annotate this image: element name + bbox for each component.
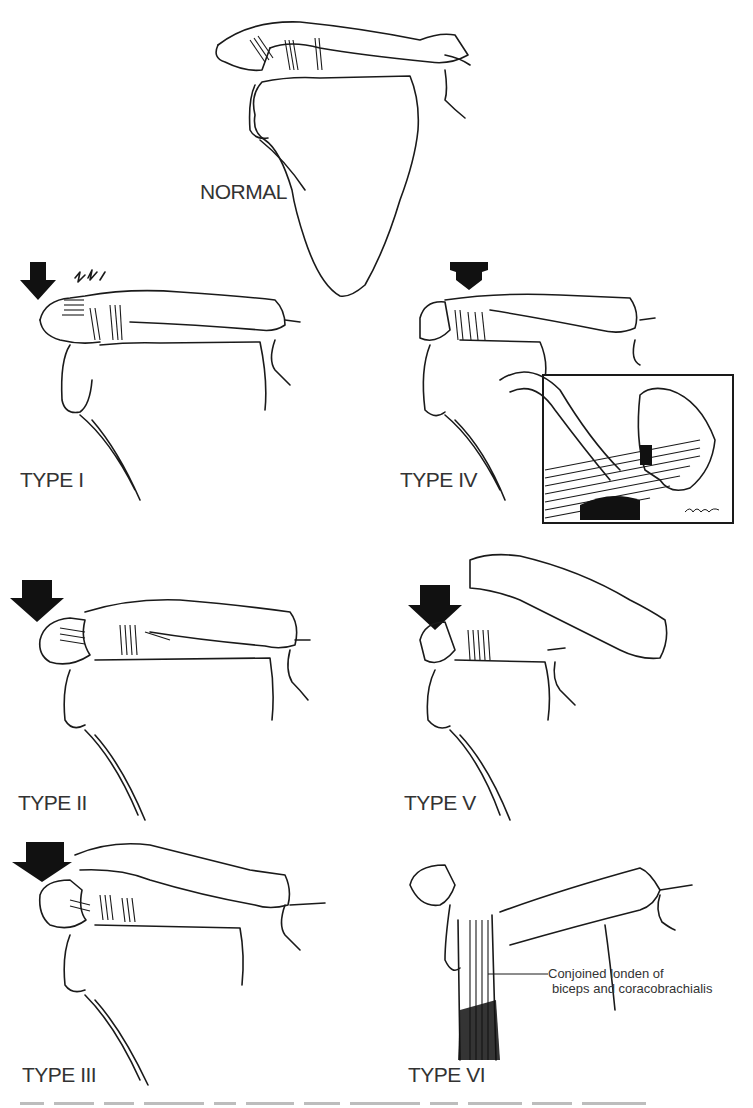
type5-shoulder-drawing [408,555,667,820]
type3-shoulder-drawing [12,842,325,1085]
annotation-line-2: biceps and coracobrachialis [548,981,712,996]
normal-shoulder-drawing [216,22,470,296]
label-normal: NORMAL [200,180,287,204]
annotation-line-1: Conjoined londen of [548,966,712,981]
type1-shoulder-drawing [20,262,300,500]
illustration-canvas [0,0,753,1108]
label-type-1: TYPE I [20,468,84,492]
arrow-down-icon [20,262,56,300]
label-type-6: TYPE VI [408,1063,485,1087]
arrow-down-icon [10,580,64,622]
label-type-2: TYPE II [18,791,87,815]
annotation-conjoined-tendon: Conjoined londen of biceps and coracobra… [548,966,712,996]
label-type-5: TYPE V [404,791,476,815]
acromioclavicular-injury-classification-figure: NORMAL TYPE I TYPE IV TYPE II TYPE V TYP… [0,0,753,1108]
arrow-down-flat-icon [450,262,488,290]
type6-shoulder-drawing [410,865,692,1060]
arrow-down-icon [12,842,72,882]
figure-caption-cropped [20,1102,740,1108]
label-type-4: TYPE IV [400,468,477,492]
type2-shoulder-drawing [10,580,310,820]
label-type-3: TYPE III [22,1063,96,1087]
